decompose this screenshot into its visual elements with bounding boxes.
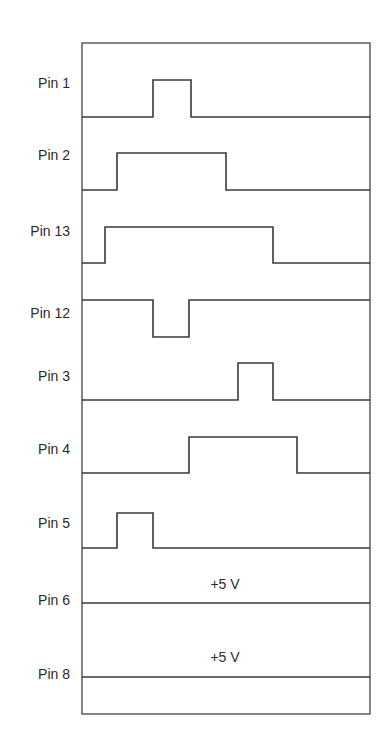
signal-pin-13: Pin 13 <box>30 223 370 263</box>
signal-pin-5: Pin 5 <box>38 513 370 548</box>
waveform <box>82 80 370 117</box>
waveform <box>82 227 370 263</box>
diagram-frame <box>82 43 370 714</box>
voltage-annotation: +5 V <box>210 649 240 665</box>
signal-pin-3: Pin 3 <box>38 363 370 400</box>
signal-label: Pin 3 <box>38 368 70 384</box>
voltage-annotation: +5 V <box>210 576 240 592</box>
waveform <box>82 513 370 548</box>
signal-pin-1: Pin 1 <box>38 75 370 117</box>
signal-label: Pin 1 <box>38 75 70 91</box>
signal-pin-12: Pin 12 <box>30 300 370 337</box>
waveform <box>82 153 370 190</box>
waveform <box>82 300 370 337</box>
signal-label: Pin 5 <box>38 515 70 531</box>
signal-label: Pin 8 <box>38 666 70 682</box>
signal-pin-4: Pin 4 <box>38 437 370 473</box>
timing-diagram: Pin 1Pin 2Pin 13Pin 12Pin 3Pin 4Pin 5Pin… <box>0 0 389 744</box>
waveform <box>82 363 370 400</box>
signal-label: Pin 12 <box>30 305 70 321</box>
signal-label: Pin 4 <box>38 441 70 457</box>
signal-group: Pin 1Pin 2Pin 13Pin 12Pin 3Pin 4Pin 5Pin… <box>30 75 370 682</box>
signal-pin-2: Pin 2 <box>38 147 370 190</box>
signal-pin-6: Pin 6+5 V <box>38 576 370 608</box>
waveform <box>82 437 370 473</box>
signal-label: Pin 2 <box>38 147 70 163</box>
signal-label: Pin 13 <box>30 223 70 239</box>
signal-pin-8: Pin 8+5 V <box>38 649 370 682</box>
signal-label: Pin 6 <box>38 592 70 608</box>
